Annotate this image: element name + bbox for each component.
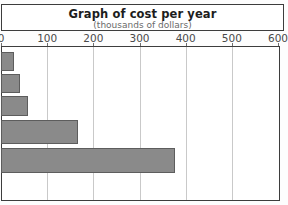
bar-chart: Graph of cost per year (thousands of dol… <box>0 0 288 205</box>
bar-0[interactable] <box>1 52 14 71</box>
bar-4[interactable] <box>1 148 175 173</box>
chart-title-box: Graph of cost per year (thousands of dol… <box>1 4 284 31</box>
bar-row <box>2 52 279 71</box>
page-title: Graph of cost per year <box>2 7 283 21</box>
bar-row <box>2 120 279 144</box>
bar-row <box>2 148 279 173</box>
bar-1[interactable] <box>1 74 20 93</box>
bar-row <box>2 96 279 116</box>
bar-3[interactable] <box>1 120 78 144</box>
bar-row <box>2 74 279 93</box>
chart-values-readout: 26,39,56,165,375 <box>0 0 1 1</box>
x-axis-tick-labels: 0100200300400500600 <box>0 32 288 45</box>
bar-2[interactable] <box>1 96 28 116</box>
bars-layer <box>2 47 279 200</box>
chart-subtitle: (thousands of dollars) <box>2 20 283 30</box>
plot-area <box>1 46 280 201</box>
